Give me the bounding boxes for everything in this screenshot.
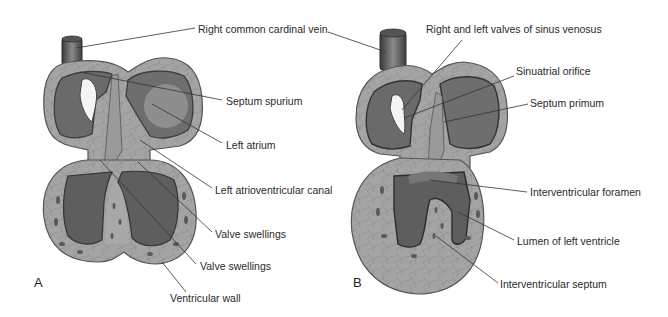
label-lumen-of-left-ventricle: Lumen of left ventricle: [517, 235, 620, 247]
label-ventricular-wall: Ventricular wall: [170, 292, 241, 304]
panel-letter-a: A: [34, 275, 43, 290]
panel-b-heart: [351, 29, 507, 294]
label-right-common-cardinal-vein: Right common cardinal vein: [198, 23, 328, 35]
left-atrium-lumen-a: [144, 84, 188, 128]
label-left-atrium: Left atrium: [226, 139, 276, 151]
label-sinuatrial-orifice: Sinuatrial orifice: [516, 65, 591, 77]
label-septum-primum: Septum primum: [530, 97, 604, 109]
heart-development-figure: Right common cardinal vein Septum spuriu…: [0, 0, 668, 317]
label-septum-spurium: Septum spurium: [226, 95, 302, 107]
diagram-drawing: [0, 0, 668, 317]
panel-a-heart: [43, 36, 202, 264]
label-valves-of-sinus-venosus: Right and left valves of sinus venosus: [426, 23, 602, 35]
label-interventricular-foramen: Interventricular foramen: [530, 186, 641, 198]
left-atrium-b: [440, 77, 499, 149]
label-left-atrioventricular-canal: Left atrioventricular canal: [215, 184, 332, 196]
label-valve-swellings-lower: Valve swellings: [200, 260, 271, 272]
label-interventricular-septum: Interventricular septum: [500, 278, 607, 290]
right-common-cardinal-vein-b: [380, 29, 406, 70]
panel-letter-b: B: [353, 275, 362, 290]
label-valve-swellings-upper: Valve swellings: [215, 228, 286, 240]
